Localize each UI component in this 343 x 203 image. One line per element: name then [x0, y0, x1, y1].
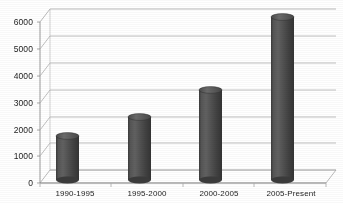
bar-top-cap	[128, 114, 151, 121]
bar-2000-2005[interactable]	[199, 87, 222, 184]
bar-base-ellipse	[56, 177, 79, 184]
gridline-leg-3000	[40, 90, 50, 103]
bar-top-cap	[56, 133, 79, 140]
bar-chart: 6000 5000 4000 3000 2000 1000 0	[0, 0, 343, 203]
y-label-2000: 2000	[14, 125, 33, 135]
x-axis-labels: 1990-1995 1995-2000 2000-2005 2005-Prese…	[55, 189, 316, 198]
y-label-1000: 1000	[14, 151, 33, 161]
y-label-0: 0	[28, 178, 33, 188]
gridline-leg-1000	[40, 143, 50, 156]
bar-top-cap	[199, 87, 222, 94]
bar-top-cap	[271, 14, 294, 21]
gridline-leg-5000	[40, 36, 50, 49]
bar-body	[271, 17, 294, 180]
bar-base-ellipse	[128, 177, 151, 184]
bar-body	[199, 90, 222, 180]
y-label-4000: 4000	[14, 71, 33, 81]
gridline-leg-4000	[40, 63, 50, 76]
gridline-leg-2000	[40, 117, 50, 130]
y-label-5000: 5000	[14, 44, 33, 54]
y-label-3000: 3000	[14, 98, 33, 108]
bar-base-ellipse	[271, 177, 294, 184]
bar-1995-2000[interactable]	[128, 114, 151, 184]
x-label-2005-present: 2005-Present	[266, 189, 316, 198]
bar-base-ellipse	[199, 177, 222, 184]
chart-canvas: 6000 5000 4000 3000 2000 1000 0	[0, 0, 343, 203]
bar-body	[128, 117, 151, 180]
bar-1990-1995[interactable]	[56, 133, 79, 184]
x-label-1990-1995: 1990-1995	[55, 189, 95, 198]
bar-2005-present[interactable]	[271, 14, 294, 184]
bar-body	[56, 136, 79, 180]
x-label-1995-2000: 1995-2000	[127, 189, 167, 198]
y-axis-labels: 6000 5000 4000 3000 2000 1000 0	[14, 17, 33, 188]
x-axis	[40, 183, 326, 187]
x-label-2000-2005: 2000-2005	[199, 189, 239, 198]
axis-diagonal-top	[40, 9, 50, 22]
y-label-6000: 6000	[14, 17, 33, 27]
